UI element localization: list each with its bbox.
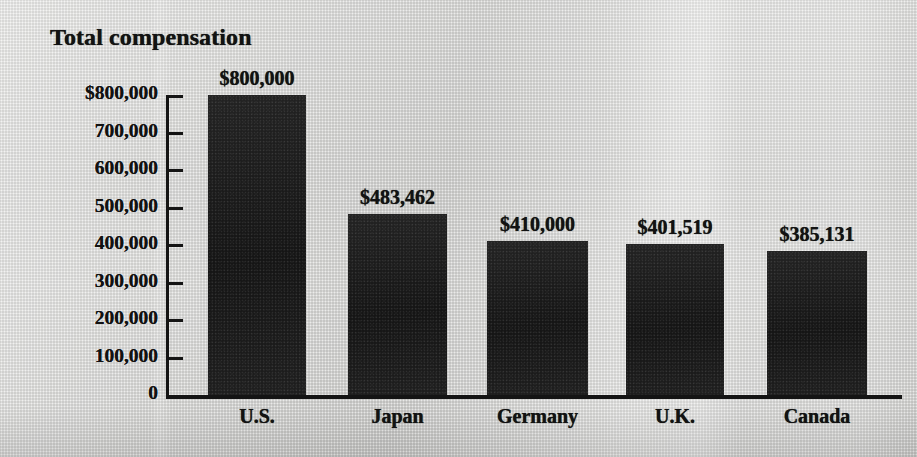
y-axis-tick <box>168 319 183 322</box>
x-axis-category-label: Canada <box>727 405 907 428</box>
y-axis-tick-label: 300,000 <box>95 270 158 292</box>
bar-value-label: $800,000 <box>168 67 346 90</box>
y-axis-tick-label: 700,000 <box>95 120 158 142</box>
y-axis-tick <box>168 357 183 360</box>
y-axis-tick <box>168 132 183 135</box>
page-title: Total compensation <box>50 24 252 51</box>
y-axis-tick-label: 0 <box>148 382 158 404</box>
x-axis-line <box>166 395 902 399</box>
chart-figure: Total compensation $800,000700,000600,00… <box>0 0 917 457</box>
bar-value-label: $385,131 <box>727 223 907 246</box>
bar <box>626 244 724 395</box>
plot-area: $800,000700,000600,000500,000400,000300,… <box>166 95 902 395</box>
bar <box>487 241 588 395</box>
y-axis-tick-labels: $800,000700,000600,000500,000400,000300,… <box>8 95 158 395</box>
y-axis-tick-label: 200,000 <box>95 307 158 329</box>
y-axis-top-cap <box>166 95 183 98</box>
bar-value-label: $483,462 <box>308 186 487 209</box>
y-axis-tick <box>168 282 183 285</box>
bar <box>767 251 867 395</box>
bar <box>348 214 447 395</box>
y-axis-tick-label: 400,000 <box>95 232 158 254</box>
y-axis-tick <box>168 207 183 210</box>
y-axis-tick-label: 500,000 <box>95 195 158 217</box>
y-axis-tick-label: 600,000 <box>95 157 158 179</box>
bar <box>208 95 306 395</box>
y-axis-tick-label: $800,000 <box>85 82 158 104</box>
y-axis-tick-label: 100,000 <box>95 345 158 367</box>
y-axis-tick <box>168 169 183 172</box>
y-axis-tick <box>168 244 183 247</box>
